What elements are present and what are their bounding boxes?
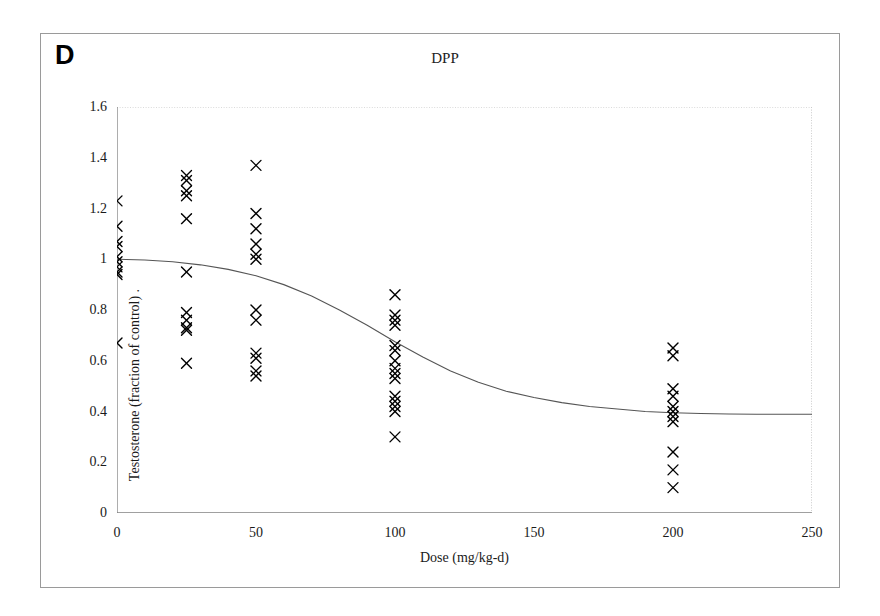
x-tick-label-3: 150: [524, 525, 545, 541]
data-point-marker: [668, 465, 678, 475]
x-tick-label-5: 250: [802, 525, 823, 541]
data-point-marker: [668, 483, 678, 493]
data-point-marker: [182, 267, 192, 277]
data-point-marker: [668, 447, 678, 457]
y-tick-label-3: 0.6: [61, 353, 107, 369]
x-tick-label-2: 100: [385, 525, 406, 541]
data-point-marker: [668, 407, 678, 417]
y-tick-label-4: 0.8: [61, 302, 107, 318]
y-tick-label-7: 1.4: [61, 150, 107, 166]
data-point-marker: [182, 214, 192, 224]
data-point-marker: [182, 171, 192, 181]
data-points-group: [117, 160, 678, 492]
ticks-group: [117, 107, 812, 513]
data-point-marker: [182, 186, 192, 196]
data-point-marker: [390, 315, 400, 325]
plot-area: 00.20.40.60.811.21.41.6 050100150200250 …: [117, 107, 812, 513]
chart-title-text: DPP: [431, 50, 459, 67]
data-point-marker: [117, 338, 122, 348]
data-point-marker: [390, 391, 400, 401]
fit-curve-line: [117, 259, 812, 414]
y-axis-label: Testosterone (fraction of control) .: [127, 185, 143, 585]
data-point-marker: [390, 346, 400, 356]
data-point-marker: [390, 290, 400, 300]
data-point-marker: [251, 249, 261, 259]
data-point-marker: [390, 396, 400, 406]
x-axis-label: Dose (mg/kg-d): [117, 550, 812, 566]
chart-title: DPP: [0, 50, 880, 67]
data-point-marker: [668, 351, 678, 361]
gridlines-group: [117, 107, 812, 513]
data-point-marker: [251, 254, 261, 264]
data-point-marker: [251, 371, 261, 381]
data-point-marker: [251, 224, 261, 234]
data-point-marker: [182, 358, 192, 368]
data-point-marker: [390, 374, 400, 384]
data-point-marker: [668, 391, 678, 401]
data-point-marker: [182, 325, 192, 335]
x-tick-label-1: 50: [249, 525, 263, 541]
data-point-marker: [390, 407, 400, 417]
data-point-marker: [251, 315, 261, 325]
axes-group: [117, 107, 812, 513]
y-tick-label-0: 0: [61, 505, 107, 521]
y-tick-label-8: 1.6: [61, 99, 107, 115]
figure-root: D DPP 00.20.40.60.811.21.41.6 0501001502…: [0, 0, 880, 616]
data-point-marker: [251, 366, 261, 376]
data-point-marker: [182, 176, 192, 186]
y-tick-label-6: 1.2: [61, 201, 107, 217]
fit-curve-group: [117, 259, 812, 414]
data-point-marker: [182, 191, 192, 201]
data-point-marker: [117, 196, 122, 206]
x-tick-label-0: 0: [114, 525, 121, 541]
data-point-marker: [390, 320, 400, 330]
data-point-marker: [251, 209, 261, 219]
y-tick-label-2: 0.4: [61, 404, 107, 420]
data-point-marker: [390, 310, 400, 320]
data-point-marker: [117, 221, 122, 231]
x-tick-label-4: 200: [663, 525, 684, 541]
data-point-marker: [251, 348, 261, 358]
data-point-marker: [668, 417, 678, 427]
data-point-marker: [251, 353, 261, 363]
data-point-marker: [251, 239, 261, 249]
data-point-marker: [182, 323, 192, 333]
y-tick-label-1: 0.2: [61, 454, 107, 470]
data-point-marker: [668, 401, 678, 411]
data-point-marker: [390, 432, 400, 442]
data-point-marker: [390, 368, 400, 378]
data-point-marker: [251, 305, 261, 315]
data-point-marker: [251, 160, 261, 170]
plot-canvas: [117, 107, 812, 513]
data-point-marker: [390, 401, 400, 411]
y-tick-label-5: 1: [61, 251, 107, 267]
data-point-marker: [390, 363, 400, 373]
